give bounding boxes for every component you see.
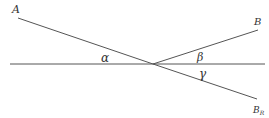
- label-gamma: γ: [199, 67, 207, 81]
- label-br-sub: R: [259, 109, 265, 116]
- ray-a: [18, 18, 153, 64]
- label-alpha: α: [101, 51, 109, 65]
- ray-b: [153, 30, 258, 64]
- label-b: B: [253, 16, 261, 27]
- label-beta: β: [196, 51, 203, 64]
- diagram-canvas: A B BR α β γ: [0, 0, 269, 118]
- label-a: A: [11, 3, 20, 16]
- label-br: BR: [252, 105, 265, 116]
